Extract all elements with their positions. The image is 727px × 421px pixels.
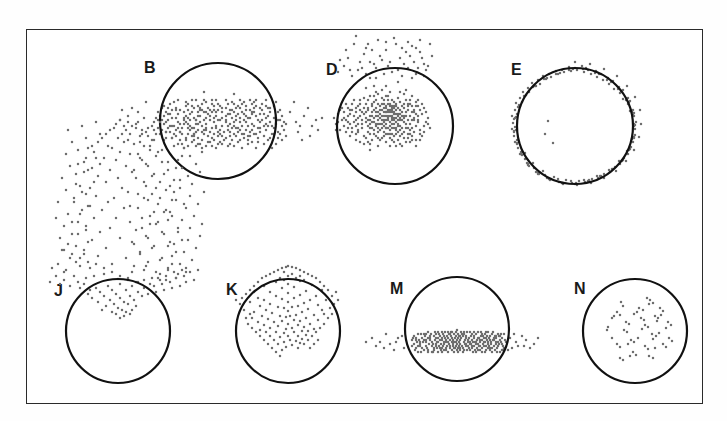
circle-outline-j — [66, 279, 170, 383]
dot-cloud-m — [365, 329, 540, 354]
panel-j — [49, 119, 206, 383]
panel-e — [511, 61, 643, 187]
dot-cloud-b — [119, 91, 324, 150]
circle-outline-n — [583, 279, 687, 383]
dot-cloud-n — [606, 297, 674, 362]
circle-outline-k — [236, 279, 340, 383]
dot-cloud-j — [49, 119, 206, 320]
panels-container: BDEJKMN — [0, 0, 727, 421]
panel-n — [583, 279, 687, 383]
circle-outline-d — [337, 68, 453, 184]
circle-outline-e — [517, 68, 633, 184]
panel-k — [235, 265, 340, 383]
panel-b — [119, 63, 324, 179]
panel-d — [333, 35, 453, 184]
dot-cloud-e — [511, 61, 643, 187]
panel-m — [365, 277, 540, 381]
scatter-plot-canvas — [0, 0, 727, 421]
